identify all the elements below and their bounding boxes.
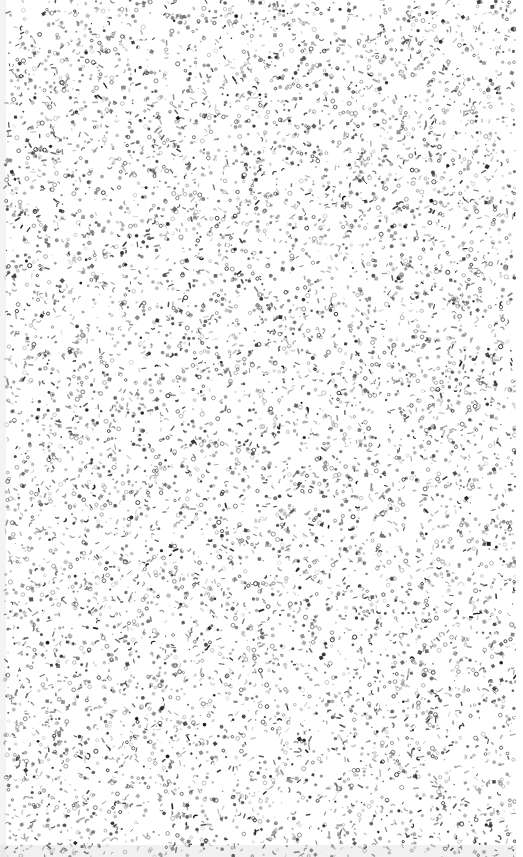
speckle-texture-field (0, 0, 523, 857)
speckle-canvas (0, 0, 523, 857)
